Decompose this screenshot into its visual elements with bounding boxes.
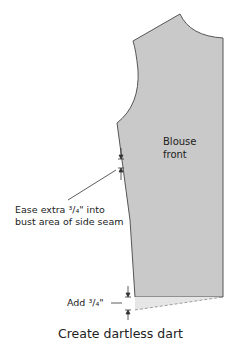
- pattern-diagram: [0, 0, 241, 350]
- add-note: Add ³/₄": [67, 297, 104, 309]
- diagram-caption: Create dartless dart: [0, 326, 241, 341]
- ease-leader-line: [68, 170, 116, 200]
- piece-label-line1: Blouse: [163, 136, 196, 148]
- ease-note-line2: bust area of side seam: [15, 216, 123, 228]
- add-arrows: [111, 286, 131, 320]
- ease-note-line1: Ease extra ³/₄" into: [15, 204, 105, 216]
- piece-label-line2: front: [163, 149, 187, 161]
